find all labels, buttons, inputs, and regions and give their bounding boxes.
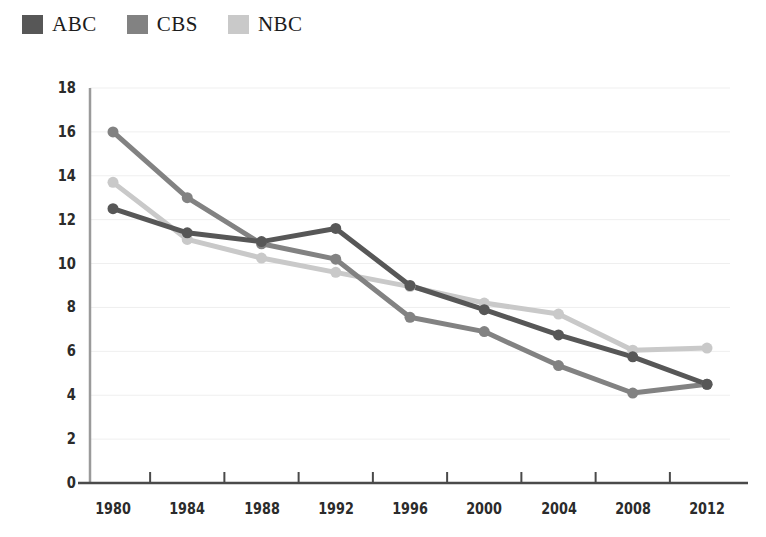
- data-point-nbc-1988: [256, 253, 267, 264]
- data-point-cbs-2004: [553, 360, 564, 371]
- x-tick-label-2008: 2008: [609, 499, 657, 518]
- line-chart: 024681012141618 198019841988199219962000…: [0, 0, 766, 537]
- data-point-abc-1988: [256, 236, 267, 247]
- x-tick-label-1996: 1996: [386, 499, 434, 518]
- chart-canvas: [0, 0, 766, 537]
- x-tick-label-1988: 1988: [238, 499, 286, 518]
- x-tick-label-2004: 2004: [535, 499, 583, 518]
- y-tick-label-2: 2: [53, 429, 76, 448]
- x-tick-label-1992: 1992: [312, 499, 360, 518]
- y-tick-label-6: 6: [53, 341, 76, 360]
- data-point-abc-2008: [627, 351, 638, 362]
- data-point-abc-1992: [330, 223, 341, 234]
- x-tick-label-1984: 1984: [163, 499, 211, 518]
- data-point-cbs-1980: [108, 126, 119, 137]
- data-point-cbs-1992: [330, 254, 341, 265]
- data-point-cbs-2008: [627, 388, 638, 399]
- axis-ticks: [150, 472, 670, 483]
- y-tick-label-18: 18: [53, 78, 76, 97]
- series-layer: [108, 126, 713, 398]
- data-point-nbc-1992: [330, 267, 341, 278]
- data-point-abc-2012: [702, 379, 713, 390]
- y-tick-label-12: 12: [53, 210, 76, 229]
- y-tick-label-16: 16: [53, 122, 76, 141]
- x-tick-label-2000: 2000: [460, 499, 508, 518]
- series-line-abc: [113, 209, 707, 385]
- y-tick-label-10: 10: [53, 254, 76, 273]
- y-tick-label-4: 4: [53, 385, 76, 404]
- y-tick-label-0: 0: [53, 473, 76, 492]
- data-point-cbs-1984: [182, 192, 193, 203]
- data-point-cbs-2000: [479, 326, 490, 337]
- data-point-nbc-2012: [702, 343, 713, 354]
- data-point-abc-1984: [182, 227, 193, 238]
- x-tick-label-1980: 1980: [89, 499, 137, 518]
- data-point-abc-2000: [479, 304, 490, 315]
- y-tick-label-8: 8: [53, 297, 76, 316]
- data-point-nbc-1980: [108, 177, 119, 188]
- data-point-abc-1980: [108, 203, 119, 214]
- data-point-cbs-1996: [405, 312, 416, 323]
- data-point-abc-2004: [553, 329, 564, 340]
- data-point-abc-1996: [405, 280, 416, 291]
- y-tick-label-14: 14: [53, 166, 76, 185]
- x-tick-label-2012: 2012: [683, 499, 731, 518]
- data-point-nbc-2004: [553, 309, 564, 320]
